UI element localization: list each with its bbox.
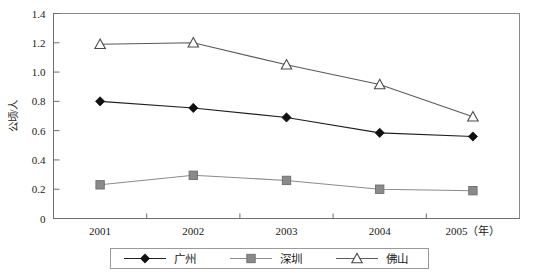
line-chart: 00.20.40.60.81.01.21.4 20012002200320042… bbox=[0, 0, 538, 273]
data-point-gz-4 bbox=[468, 132, 477, 141]
data-point-sz-3 bbox=[376, 185, 384, 193]
data-point-sz-0 bbox=[96, 181, 104, 189]
y-tick-label: 0.6 bbox=[32, 125, 46, 137]
series-gz bbox=[96, 97, 478, 141]
data-point-fs-4 bbox=[468, 112, 478, 121]
legend-label-gz: 广州 bbox=[174, 253, 196, 265]
series-layer bbox=[95, 38, 478, 195]
square-marker-icon bbox=[247, 254, 255, 262]
y-tick-label: 0 bbox=[40, 213, 46, 225]
x-tick-label: 2002 bbox=[182, 225, 204, 237]
y-tick-label: 0.4 bbox=[32, 154, 46, 166]
y-tick-label: 0.2 bbox=[32, 183, 46, 195]
legend-label-fs: 佛山 bbox=[386, 253, 408, 265]
x-axis-tick-labels: 20012002200320042005（年） bbox=[89, 224, 500, 237]
data-point-sz-4 bbox=[469, 186, 477, 194]
series-fs bbox=[95, 38, 478, 121]
data-point-sz-2 bbox=[282, 176, 290, 184]
legend-label-sz: 深圳 bbox=[280, 252, 302, 265]
y-axis-tick-labels: 00.20.40.60.81.01.21.4 bbox=[32, 8, 46, 225]
y-tick-label: 0.8 bbox=[32, 95, 46, 107]
y-tick-label: 1.4 bbox=[32, 8, 46, 20]
series-sz bbox=[96, 171, 477, 195]
y-axis-title: 公顷/人 bbox=[8, 99, 19, 133]
x-tick-label: 2001 bbox=[89, 225, 111, 237]
x-tick-label: 2003 bbox=[276, 225, 299, 237]
data-point-gz-0 bbox=[96, 97, 105, 106]
chart-container: 00.20.40.60.81.01.21.4 20012002200320042… bbox=[0, 0, 538, 273]
data-point-gz-3 bbox=[375, 128, 384, 137]
y-tick-label: 1.0 bbox=[32, 66, 46, 78]
data-point-gz-2 bbox=[282, 113, 291, 122]
x-axis-ticks bbox=[147, 214, 427, 219]
x-tick-label: 2004 bbox=[369, 225, 392, 237]
y-axis-ticks bbox=[54, 14, 60, 190]
data-point-gz-1 bbox=[189, 103, 198, 112]
x-tick-label: 2005（年） bbox=[445, 224, 500, 237]
data-point-sz-1 bbox=[189, 171, 197, 179]
y-tick-label: 1.2 bbox=[32, 37, 46, 49]
